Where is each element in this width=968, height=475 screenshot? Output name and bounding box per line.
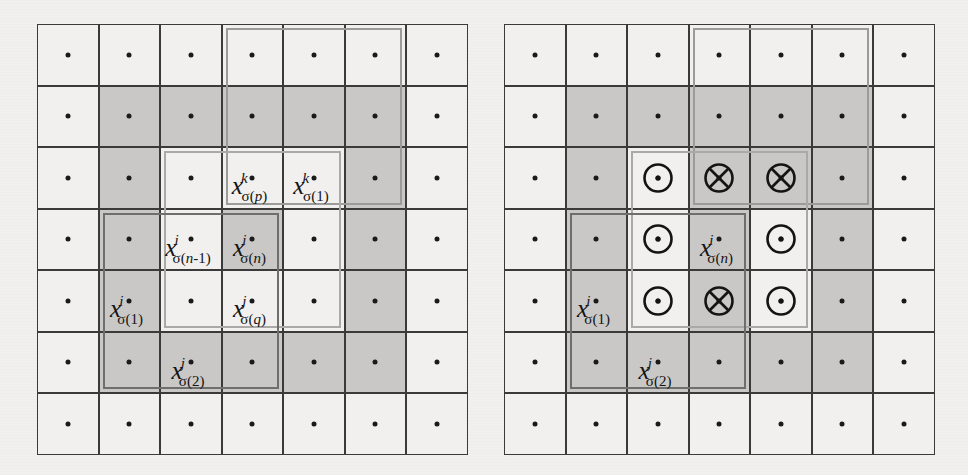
label-x-i-sigma-1: xiσ(1)	[577, 296, 618, 321]
label-x-k-sigma-p: xkσ(p)	[232, 173, 275, 198]
lattice-site-dot	[655, 421, 660, 426]
lattice-site-dot	[373, 237, 378, 242]
lattice-site-dot	[311, 114, 316, 119]
lattice-site-dot	[840, 298, 845, 303]
lattice-site-dot	[840, 175, 845, 180]
label-subscript: σ(n)	[240, 249, 266, 265]
lattice-site-dot	[717, 52, 722, 57]
lattice-site-dot	[717, 421, 722, 426]
lattice-site-dot	[840, 421, 845, 426]
label-subscript: σ(1)	[584, 311, 610, 327]
lattice-site-dot	[778, 52, 783, 57]
lattice-site-dot	[901, 298, 906, 303]
lattice-site-dot	[532, 360, 537, 365]
lattice-site-dot	[532, 421, 537, 426]
lattice-site-dot	[127, 52, 132, 57]
circle-dot-icon	[641, 161, 675, 195]
label-subscript: σ(q)	[240, 311, 266, 327]
lattice-site-dot	[65, 360, 70, 365]
lattice-site-dot	[250, 52, 255, 57]
lattice-grid: xkσ(p)xkσ(1)xiσ(n-1)xiσ(n)xiσ(1)xjσ(q)xj…	[37, 24, 468, 455]
circle-dot-icon	[764, 284, 798, 318]
lattice-site-dot	[778, 114, 783, 119]
lattice-site-dot	[532, 175, 537, 180]
lattice-site-dot	[250, 114, 255, 119]
lattice-site-dot	[311, 52, 316, 57]
lattice-site-dot	[778, 421, 783, 426]
label-superscript: j	[242, 293, 246, 309]
lattice-site-dot	[188, 298, 193, 303]
lattice-site-dot	[373, 114, 378, 119]
lattice-site-dot	[434, 175, 439, 180]
label-x-i-sigma-n: xiσ(n)	[233, 234, 274, 259]
lattice-site-dot	[717, 360, 722, 365]
label-subscript: σ(2)	[179, 372, 205, 388]
lattice-site-dot	[532, 52, 537, 57]
circle-dot-icon	[641, 284, 675, 318]
label-superscript: i	[174, 231, 178, 247]
lattice-site-dot	[373, 52, 378, 57]
label-subscript: σ(n-1)	[173, 249, 211, 265]
lattice-figure: xkσ(p)xkσ(1)xiσ(n-1)xiσ(n)xiσ(1)xjσ(q)xj…	[0, 0, 968, 475]
lattice-site-dot	[188, 421, 193, 426]
lattice-site-dot	[901, 114, 906, 119]
lattice-site-dot	[434, 52, 439, 57]
lattice-site-dot	[311, 421, 316, 426]
label-superscript: i	[709, 231, 713, 247]
lattice-site-dot	[532, 237, 537, 242]
circle-cross-icon	[702, 161, 736, 195]
label-superscript: i	[242, 231, 246, 247]
lattice-site-dot	[655, 52, 660, 57]
lattice-site-dot	[901, 175, 906, 180]
lattice-site-dot	[188, 114, 193, 119]
label-superscript: k	[302, 170, 309, 186]
lattice-site-dot	[655, 114, 660, 119]
lattice-site-dot	[434, 360, 439, 365]
lattice-site-dot	[65, 237, 70, 242]
label-subscript: σ(p)	[242, 188, 268, 204]
lattice-site-dot	[65, 175, 70, 180]
lattice-site-dot	[434, 237, 439, 242]
label-x-i-sigma-2: xjσ(2)	[639, 357, 680, 382]
label-superscript: i	[119, 293, 123, 309]
label-superscript: j	[181, 354, 185, 370]
lattice-site-dot	[373, 298, 378, 303]
circle-dot-icon	[641, 222, 675, 256]
lattice-site-dot	[250, 360, 255, 365]
lattice-site-dot	[434, 298, 439, 303]
lattice-site-dot	[840, 360, 845, 365]
lattice-site-dot	[373, 360, 378, 365]
left-lattice-panel: xkσ(p)xkσ(1)xiσ(n-1)xiσ(n)xiσ(1)xjσ(q)xj…	[37, 24, 468, 455]
label-x-k-sigma-1: xkσ(1)	[293, 173, 336, 198]
lattice-site-dot	[778, 360, 783, 365]
lattice-site-dot	[65, 52, 70, 57]
lattice-site-dot	[901, 237, 906, 242]
lattice-site-dot	[840, 114, 845, 119]
lattice-site-dot	[532, 114, 537, 119]
lattice-site-dot	[594, 114, 599, 119]
lattice-site-dot	[594, 52, 599, 57]
label-x-i-sigma-1: xiσ(1)	[110, 296, 151, 321]
lattice-grid: xiσ(n)xiσ(1)xjσ(2)	[504, 24, 935, 455]
lattice-site-dot	[127, 237, 132, 242]
lattice-site-dot	[594, 421, 599, 426]
lattice-site-dot	[127, 421, 132, 426]
lattice-site-dot	[127, 114, 132, 119]
circle-dot-icon	[764, 222, 798, 256]
lattice-site-dot	[188, 52, 193, 57]
label-x-j-sigma-q: xjσ(q)	[233, 296, 274, 321]
label-x-i-sigma-n-1: xiσ(n-1)	[165, 234, 218, 259]
circle-cross-icon	[764, 161, 798, 195]
lattice-site-dot	[373, 175, 378, 180]
lattice-site-dot	[434, 421, 439, 426]
label-x-i-sigma-n: xiσ(n)	[700, 234, 741, 259]
lattice-site-dot	[65, 114, 70, 119]
label-subscript: σ(1)	[303, 188, 329, 204]
label-subscript: σ(n)	[707, 249, 733, 265]
label-subscript: σ(1)	[117, 311, 143, 327]
lattice-site-dot	[434, 114, 439, 119]
lattice-site-dot	[594, 360, 599, 365]
label-superscript: k	[241, 170, 248, 186]
lattice-site-dot	[373, 421, 378, 426]
right-lattice-panel: xiσ(n)xiσ(1)xjσ(2)	[504, 24, 935, 455]
